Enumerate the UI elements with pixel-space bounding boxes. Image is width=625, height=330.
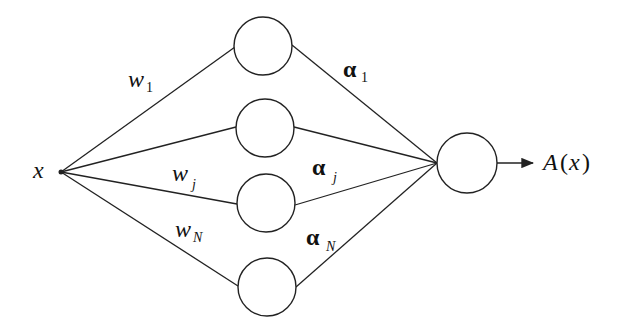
- weight-label-wj: w j: [172, 160, 196, 192]
- hidden-node-1: [234, 17, 292, 75]
- weight-label-w1: w 1: [128, 66, 153, 95]
- alphaN-base: α: [306, 224, 320, 250]
- weight-label-alphaj: α j: [312, 154, 337, 185]
- edge-x-node2: [61, 127, 236, 172]
- hidden-node-N: [238, 258, 296, 316]
- alpha1-base: α: [343, 56, 357, 82]
- edge-x-nodeN: [61, 172, 238, 286]
- weight-label-alphaN: α N: [306, 224, 336, 254]
- output-node: [437, 133, 497, 193]
- wN-base: w: [175, 216, 191, 242]
- w1-base: w: [128, 66, 144, 92]
- hidden-node-j: [237, 174, 295, 232]
- alphaj-base: α: [312, 154, 326, 180]
- alphaj-sub: j: [331, 170, 337, 185]
- wj-base: w: [172, 160, 188, 186]
- hidden-node-2: [236, 99, 294, 157]
- output-label-paren-open: (: [560, 149, 568, 175]
- wN-sub: N: [192, 230, 203, 245]
- weight-label-wN: w N: [175, 216, 203, 245]
- network-diagram: x w 1 w j w N α 1 α j α N A ( x ): [0, 0, 625, 330]
- input-label: x: [32, 157, 44, 183]
- wj-sub: j: [190, 177, 196, 192]
- alphaN-sub: N: [325, 239, 336, 254]
- edge-x-node1: [61, 47, 235, 172]
- output-label-x: x: [568, 149, 580, 175]
- input-node-dot: [59, 170, 64, 175]
- output-label-A: A: [541, 149, 558, 175]
- weight-label-alpha1: α 1: [343, 56, 368, 85]
- output-label: A ( x ): [541, 149, 590, 175]
- edge-x-nodej: [61, 172, 237, 204]
- output-label-paren-close: ): [582, 149, 590, 175]
- w1-sub: 1: [146, 80, 153, 95]
- alpha1-sub: 1: [361, 70, 368, 85]
